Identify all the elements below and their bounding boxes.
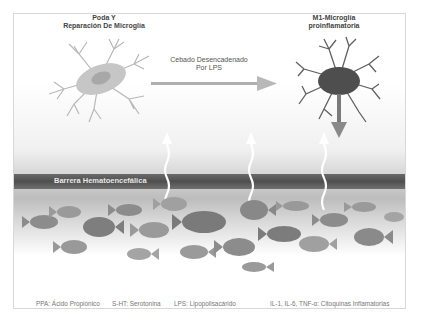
legend-lps: LPS: Lipopolisacárido [174,300,236,307]
legend-5ht: S-HT: Serotonina [112,300,161,307]
arrow-label: Cebado Desencadenado Por LPS [149,56,269,72]
legend-ppa: PPA: Ácido Propiónico [36,300,100,307]
gut-microbiota-fish-icon [14,192,406,282]
priming-arrow-icon [149,76,279,92]
left-cell-title: Poda Y Reparación De Microglía [54,14,154,30]
activated-microglia-icon [294,34,384,144]
legend-cytokines: IL-1, IL-6, TNF-α: Citoquinas Inflamator… [270,300,389,307]
right-cell-title: M1-Microglía proinflamatoria [284,14,384,30]
resting-microglia-icon [39,34,159,124]
diagram-frame: Barrera Hematoencefálica Poda Y Reparaci… [13,13,406,309]
barrier-label: Barrera Hematoencefálica [54,176,147,185]
